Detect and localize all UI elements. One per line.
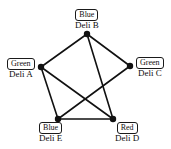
graph-edge-b-c [87,34,130,66]
node-name-b: Deli B [75,21,99,30]
graph-node-b[interactable] [84,31,90,37]
graph-coloring-diagram: BlueDeli BGreenDeli AGreenDeli CBlueDeli… [0,0,171,149]
node-label-group-b: BlueDeli B [75,4,99,30]
graph-node-c[interactable] [127,63,133,69]
node-label-group-d: RedDeli D [115,117,139,143]
graph-edge-b-d [87,34,113,119]
node-label-group-e: BlueDeli E [39,117,62,143]
graph-edge-c-e [58,66,130,119]
node-name-c: Deli C [136,69,164,78]
nodes-layer [38,31,133,122]
edges-layer [41,34,130,119]
node-label-group-c: GreenDeli C [136,52,164,78]
graph-edge-a-b [41,34,87,67]
node-name-a: Deli A [7,70,35,79]
node-label-group-a: GreenDeli A [7,53,35,79]
graph-edge-a-e [41,67,58,119]
graph-edge-a-d [41,67,113,119]
node-name-d: Deli D [115,134,139,143]
node-name-e: Deli E [39,134,62,143]
graph-node-a[interactable] [38,64,44,70]
